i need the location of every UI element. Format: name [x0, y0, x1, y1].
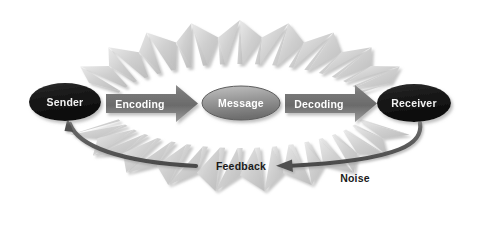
decoding-arrow-label: Decoding [294, 98, 343, 110]
encoding-arrow-label: Encoding [115, 98, 164, 110]
noise-label: Noise [340, 172, 370, 184]
communication-model-diagram: Encoding Decoding Sender Message Receive… [0, 0, 477, 227]
node-sender: Sender [29, 83, 101, 121]
node-receiver: Receiver [377, 84, 451, 122]
node-message: Message [202, 86, 280, 120]
noise-zigzag-leg [265, 147, 284, 192]
sender-label: Sender [47, 96, 84, 108]
message-label: Message [218, 97, 264, 109]
encoding-arrow: Encoding [106, 85, 198, 122]
feedback-label: Feedback [216, 160, 266, 172]
diagram-canvas: Encoding Decoding Sender Message Receive… [0, 0, 477, 227]
receiver-label: Receiver [391, 97, 436, 109]
